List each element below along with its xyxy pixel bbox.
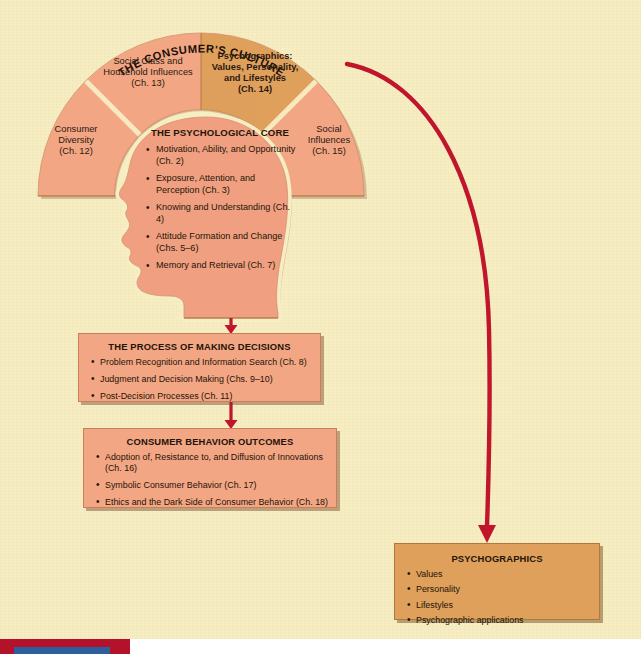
- list-item: Adoption of, Resistance to, and Diffusio…: [96, 452, 328, 475]
- list-item: Knowing and Understanding (Ch. 4): [146, 202, 296, 226]
- box-title: CONSUMER BEHAVIOR OUTCOMES: [84, 436, 336, 447]
- psychographics-list: Values Personality Lifestyles Psychograp…: [395, 569, 599, 637]
- list-item: Motivation, Ability, and Opportunity (Ch…: [146, 144, 296, 168]
- process-of-making-decisions-box[interactable]: THE PROCESS OF MAKING DECISIONS Problem …: [78, 333, 321, 402]
- decisions-list: Problem Recognition and Information Sear…: [79, 357, 320, 414]
- consumer-behavior-outcomes-box[interactable]: CONSUMER BEHAVIOR OUTCOMES Adoption of, …: [83, 428, 337, 508]
- box-title: PSYCHOGRAPHICS: [395, 553, 599, 564]
- wedge-label-social-influences: Social Influences (Ch. 15): [296, 124, 362, 157]
- diagram-page: THE CONSUMER'S CULTURE Social Class and …: [0, 0, 641, 654]
- box-title: THE PROCESS OF MAKING DECISIONS: [79, 341, 320, 352]
- psychological-core-block: THE PSYCHOLOGICAL CORE Motivation, Abili…: [144, 127, 296, 278]
- wedge-label-social-class: Social Class and Household Influences (C…: [96, 56, 200, 89]
- psychological-core-list: Motivation, Ability, and Opportunity (Ch…: [144, 144, 296, 272]
- list-item: Values: [407, 569, 591, 580]
- list-item: Personality: [407, 584, 591, 595]
- list-item: Problem Recognition and Information Sear…: [91, 357, 312, 368]
- list-item: Attitude Formation and Change (Chs. 5–6): [146, 231, 296, 255]
- list-item: Ethics and the Dark Side of Consumer Beh…: [96, 497, 328, 508]
- list-item: Symbolic Consumer Behavior (Ch. 17): [96, 480, 328, 491]
- wedge-label-psychographics: Psychographics: Values, Personality, and…: [206, 51, 304, 95]
- list-item: Lifestyles: [407, 600, 591, 611]
- list-item: Judgment and Decision Making (Chs. 9–10): [91, 374, 312, 385]
- page-edge-red-strip: [0, 639, 130, 654]
- list-item: Memory and Retrieval (Ch. 7): [146, 260, 296, 272]
- list-item: Post-Decision Processes (Ch. 11): [91, 391, 312, 402]
- psychographics-box[interactable]: PSYCHOGRAPHICS Values Personality Lifest…: [394, 543, 600, 620]
- arrow-psychographics-curve: [347, 64, 496, 543]
- psychological-core-title: THE PSYCHOLOGICAL CORE: [144, 127, 296, 139]
- page-edge-white: [130, 639, 641, 654]
- wedge-label-consumer-diversity: Consumer Diversity (Ch. 12): [42, 124, 110, 157]
- page-edge-blue-strip: [14, 647, 110, 654]
- outcomes-list: Adoption of, Resistance to, and Diffusio…: [84, 452, 336, 520]
- list-item: Exposure, Attention, and Perception (Ch.…: [146, 173, 296, 197]
- list-item: Psychographic applications: [407, 615, 591, 626]
